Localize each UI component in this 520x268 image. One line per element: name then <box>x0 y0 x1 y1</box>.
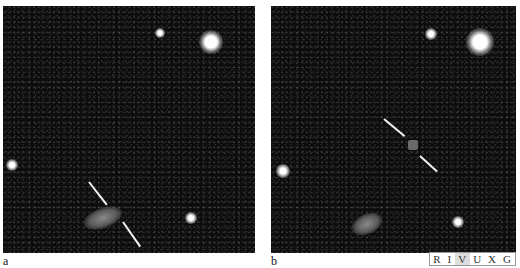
star <box>276 164 290 178</box>
bright-star <box>466 28 494 56</box>
band-r: R <box>430 253 444 265</box>
star <box>155 28 165 38</box>
image-panel-b <box>271 6 516 253</box>
band-v: V <box>455 253 470 265</box>
panel-label-a: a <box>3 254 8 268</box>
star <box>425 28 437 40</box>
panel-label-b: b <box>271 254 277 268</box>
bright-star <box>199 30 223 54</box>
band-g: G <box>500 253 515 265</box>
wavelength-band-strip: R I V U X G <box>429 252 516 266</box>
star <box>452 216 464 228</box>
star <box>6 159 18 171</box>
image-panel-a <box>3 6 255 253</box>
target-object <box>408 140 418 150</box>
star <box>185 212 197 224</box>
band-u: U <box>470 253 485 265</box>
band-x: X <box>485 253 500 265</box>
band-i: I <box>445 253 456 265</box>
